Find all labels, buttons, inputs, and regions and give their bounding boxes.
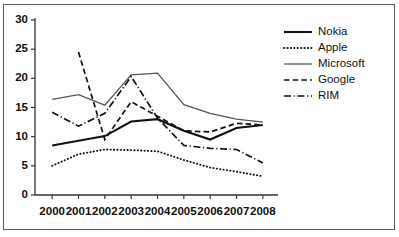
y-tick-label: 20 [2,72,28,84]
series-line-microsoft [52,73,263,122]
y-tick-label: 0 [2,189,28,201]
legend-label-google: Google [318,74,355,86]
series-line-apple [52,150,263,177]
x-tick-label: 2008 [243,206,283,218]
line-chart-figure: 302520151050 200020012002200320042005200… [0,0,399,237]
series-line-google [79,52,263,140]
legend-label-nokia: Nokia [318,26,347,38]
data-series [52,52,263,176]
legend-label-rim: RIM [318,90,339,102]
y-tick-label: 25 [2,43,28,55]
y-tick-label: 30 [2,14,28,26]
series-line-nokia [52,119,263,145]
legend-label-microsoft: Microsoft [318,58,365,70]
y-tick-label: 10 [2,131,28,143]
legend-sample-lines [284,32,312,96]
legend-label-apple: Apple [318,42,347,54]
y-tick-label: 5 [2,160,28,172]
y-tick-label: 15 [2,102,28,114]
